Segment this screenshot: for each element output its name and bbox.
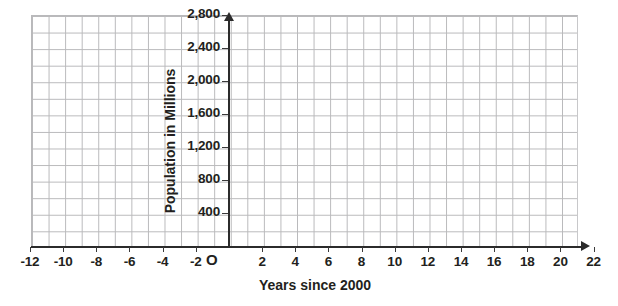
x-tick-mark <box>362 247 363 252</box>
x-tick-mark <box>295 247 296 252</box>
x-tick-mark <box>262 247 263 252</box>
y-tick-mark <box>222 48 228 49</box>
y-axis-line <box>228 20 230 248</box>
x-axis-line <box>31 246 583 248</box>
x-tick-mark <box>96 247 97 252</box>
plot-grid <box>31 15 578 247</box>
coordinate-grid-figure: -12-10-8-6-4-2246810121416182022 4008001… <box>0 0 618 306</box>
origin-marker: O <box>206 252 218 267</box>
y-tick-label: 2,800 <box>160 6 220 21</box>
x-tick-mark <box>560 247 561 252</box>
x-tick-mark <box>594 247 595 252</box>
x-tick-mark <box>63 247 64 252</box>
x-tick-mark <box>461 247 462 252</box>
y-tick-mark <box>222 147 228 148</box>
x-tick-mark <box>428 247 429 252</box>
y-tick-mark <box>222 213 228 214</box>
x-tick-label: 22 <box>574 254 614 269</box>
y-axis-title: Population in Millions <box>162 69 178 214</box>
x-tick-mark <box>395 247 396 252</box>
y-tick-mark <box>222 114 228 115</box>
x-tick-mark <box>494 247 495 252</box>
y-tick-mark <box>222 81 228 82</box>
y-tick-label: 2,400 <box>160 39 220 54</box>
y-tick-mark <box>222 180 228 181</box>
x-tick-mark <box>30 247 31 252</box>
x-tick-mark <box>328 247 329 252</box>
x-tick-mark <box>129 247 130 252</box>
y-axis-arrow-icon <box>224 12 234 21</box>
x-axis-title: Years since 2000 <box>225 277 405 293</box>
y-tick-mark <box>222 15 228 16</box>
x-axis-arrow-icon <box>581 241 590 251</box>
x-tick-mark <box>527 247 528 252</box>
